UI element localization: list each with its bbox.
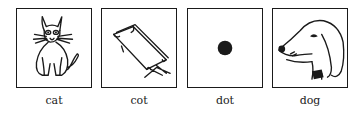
label-dot: dot [187, 94, 263, 107]
dog-icon [273, 9, 347, 87]
label-cat: cat [16, 94, 92, 107]
cot-icon [102, 9, 176, 87]
picture-card-cot [101, 8, 177, 88]
cat-icon [17, 9, 91, 87]
label-cot: cot [101, 94, 177, 107]
picture-card-cat [16, 8, 92, 88]
picture-card-dog [272, 8, 348, 88]
label-dog: dog [272, 94, 348, 107]
dot-icon [188, 9, 262, 87]
picture-card-dot [187, 8, 263, 88]
